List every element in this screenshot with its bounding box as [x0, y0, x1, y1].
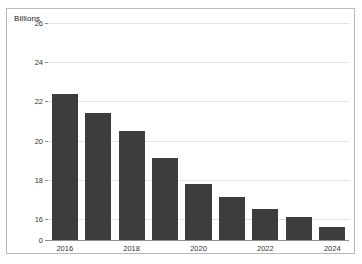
y-axis-tick-label: 26 [35, 19, 43, 28]
bar[interactable] [319, 227, 345, 240]
bar[interactable] [119, 131, 145, 240]
y-axis-tick-mark [45, 23, 48, 24]
x-axis-tick-label: 2020 [190, 244, 207, 253]
y-axis-tick-mark [45, 240, 48, 241]
y-axis-tick-label: 0 [39, 236, 43, 245]
y-axis-tick-mark [45, 101, 48, 102]
bar[interactable] [52, 94, 78, 240]
bar[interactable] [85, 113, 111, 240]
y-axis-tick-label: 24 [35, 58, 43, 67]
plot-area: 262422201816020162018202020222024 [48, 23, 349, 240]
gridline [48, 101, 349, 102]
gridline [48, 62, 349, 63]
y-axis-tick-mark [45, 62, 48, 63]
x-axis-tick-label: 2018 [123, 244, 140, 253]
y-axis-tick-mark [45, 141, 48, 142]
x-axis-line [48, 240, 349, 241]
y-axis-tick-label: 20 [35, 136, 43, 145]
y-axis-tick-mark [45, 219, 48, 220]
gridline [48, 23, 349, 24]
y-axis-tick-label: 18 [35, 175, 43, 184]
bar[interactable] [185, 184, 211, 240]
y-axis-tick-mark [45, 180, 48, 181]
bar[interactable] [286, 217, 312, 240]
bar[interactable] [252, 209, 278, 240]
x-axis-tick-label: 2022 [257, 244, 274, 253]
y-axis-tick-label: 16 [35, 215, 43, 224]
plot-wrapper: Billions 2624222018160201620182020202220… [7, 9, 354, 253]
bar[interactable] [219, 197, 245, 240]
y-axis-tick-label: 22 [35, 97, 43, 106]
chart-panel: Billions 2624222018160201620182020202220… [6, 8, 355, 254]
x-axis-tick-label: 2024 [324, 244, 341, 253]
bar[interactable] [152, 158, 178, 240]
x-axis-tick-label: 2016 [56, 244, 73, 253]
